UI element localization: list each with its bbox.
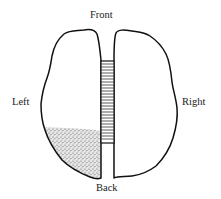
right-hemisphere <box>114 30 177 178</box>
right-label: Right <box>182 97 205 108</box>
left-label: Left <box>12 97 30 108</box>
back-label: Back <box>96 183 118 194</box>
front-label: Front <box>90 10 113 21</box>
corpus-callosum <box>101 61 114 143</box>
shaded-region <box>40 127 101 185</box>
